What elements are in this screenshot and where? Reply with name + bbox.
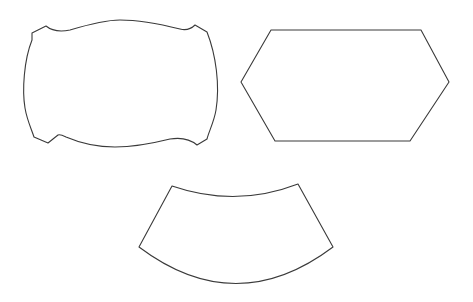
arc-band-shape [139, 184, 333, 284]
hexagon-shape [241, 30, 449, 141]
diagram-canvas [0, 0, 473, 302]
ornate-frame-shape [24, 20, 218, 147]
